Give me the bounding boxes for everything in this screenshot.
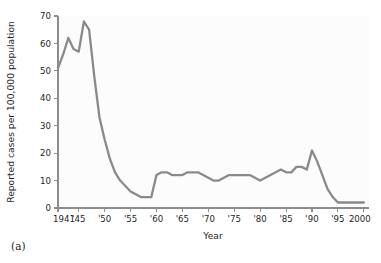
x-tick-label: '45 [72,214,85,224]
incidence-line-chart: 010203040506070 1941'45'50'55'60'65'70'7… [0,0,381,263]
x-tick-label: '60 [150,214,163,224]
figure-panel: 010203040506070 1941'45'50'55'60'65'70'7… [0,0,381,263]
x-tick-label: '80 [253,214,266,224]
y-tick-label: 20 [40,148,51,158]
y-tick-labels: 010203040506070 [40,11,51,213]
x-tick-label: '75 [228,214,241,224]
x-tick-label: '70 [202,214,215,224]
x-axis-title: Year [202,230,223,241]
y-tick-label: 40 [40,93,51,103]
panel-label: (a) [11,240,26,252]
x-tick-label: '55 [124,214,137,224]
y-tick-label: 0 [46,203,51,213]
x-tick-label: 2000 [349,214,371,224]
x-tick-label: '85 [279,214,292,224]
plot-background [58,16,369,208]
x-tick-label: '65 [176,214,189,224]
x-tick-labels: 1941'45'50'55'60'65'70'75'80'85'90'95200… [53,214,371,224]
x-tick-label: '95 [331,214,344,224]
x-tick-label: '50 [98,214,111,224]
x-tick-label: '90 [305,214,318,224]
y-tick-label: 70 [40,11,51,21]
y-tick-label: 10 [40,176,51,186]
y-tick-label: 60 [40,39,51,49]
y-axis-title: Reported cases per 100,000 population [5,21,16,203]
y-tick-label: 50 [40,66,51,76]
y-tick-label: 30 [40,121,51,131]
